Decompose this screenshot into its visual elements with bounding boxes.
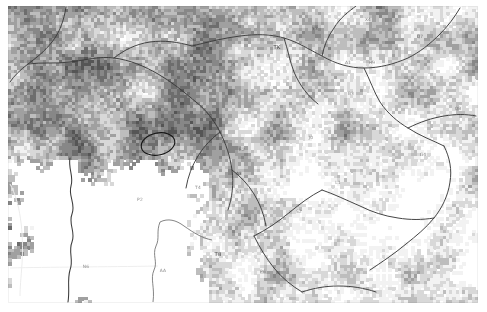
map-label: B3 (348, 91, 354, 96)
map-figure-root: F4D4J4Y3X4TKE2J0A3T4S1S2B3A1P2T8AAQ7Q8G4… (0, 0, 487, 312)
map-label: Q7 (417, 34, 424, 39)
map-label: S2 (296, 209, 302, 214)
map-plate[interactable]: F4D4J4Y3X4TKE2J0A3T4S1S2B3A1P2T8AAQ7Q8G4… (8, 6, 478, 303)
map-label: Q8 (455, 106, 462, 111)
map-label: P6 (260, 269, 266, 274)
map-label: X4 (365, 17, 371, 22)
map-label: Y3 (312, 26, 318, 31)
map-label: H9 (369, 60, 376, 65)
map-label: D4 (205, 111, 212, 116)
map-label: L1 (335, 180, 341, 185)
map-label: N6 (83, 264, 89, 269)
map-label-layer: F4D4J4Y3X4TKE2J0A3T4S1S2B3A1P2T8AAQ7Q8G4… (8, 6, 478, 303)
map-label: E2 (239, 147, 245, 152)
map-label: A3 (236, 171, 242, 176)
map-label: F4 (57, 152, 63, 157)
map-label: T8 (215, 252, 222, 257)
map-label: A1 (345, 60, 351, 65)
map-label: J0 (309, 135, 314, 140)
map-label: P2 (137, 197, 143, 202)
map-label: AA (160, 268, 167, 273)
map-label: J4 (231, 62, 236, 67)
map-label: S1 (236, 189, 242, 194)
map-label: G4 (420, 152, 427, 157)
map-label: T4 (195, 185, 201, 190)
map-label: TK (274, 45, 281, 50)
